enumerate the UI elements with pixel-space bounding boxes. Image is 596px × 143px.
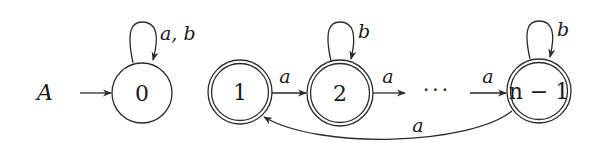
edge-n1-1-label: a	[412, 114, 423, 136]
edge-2-ellipsis-label: a	[382, 65, 393, 87]
automaton-diagram: A 0 a, b 1 a 2 b a ··· a n − 1 b	[0, 0, 596, 143]
loop-n-minus-1-label: b	[557, 18, 569, 40]
state-n-minus-1: n − 1	[507, 59, 571, 123]
state-1-label: 1	[233, 80, 247, 105]
loop-0-edge	[130, 22, 156, 63]
loop-2-edge	[328, 22, 354, 61]
state-n-minus-1-label: n − 1	[509, 79, 570, 104]
loop-0-label: a, b	[160, 22, 196, 44]
edge-n1-1-return	[264, 111, 512, 139]
state-0-label: 0	[135, 81, 149, 106]
state-1: 1	[208, 60, 272, 124]
edge-ellipsis-n1-label: a	[482, 65, 493, 87]
automaton-name: A	[35, 80, 53, 105]
loop-2-label: b	[358, 20, 370, 42]
state-0: 0	[112, 63, 172, 123]
state-2: 2	[307, 60, 373, 126]
edge-1-2-label: a	[279, 65, 290, 87]
state-2-label: 2	[333, 81, 347, 106]
ellipsis: ···	[423, 78, 451, 102]
loop-n-minus-1-edge	[527, 21, 553, 59]
